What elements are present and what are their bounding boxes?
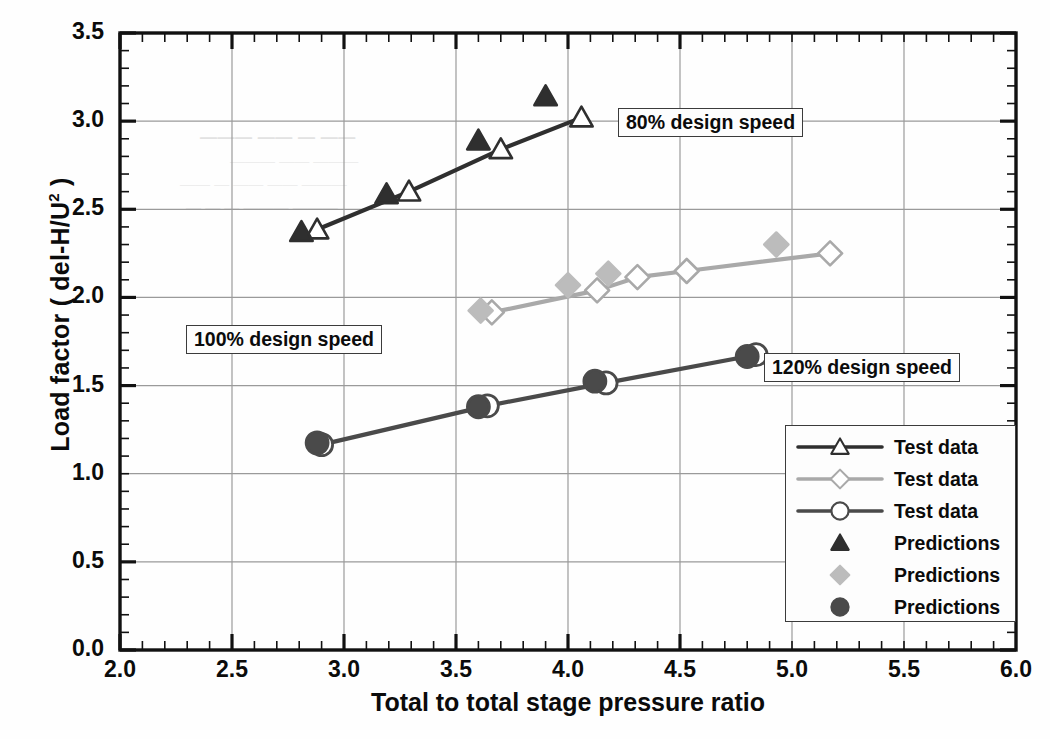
legend-label: Test data (894, 500, 978, 523)
legend-symbol (786, 495, 894, 527)
x-tick-label: 4.5 (635, 656, 725, 683)
x-tick-label: 4.0 (523, 656, 613, 683)
legend-symbol (786, 591, 894, 623)
y-tick-label: 1.0 (8, 459, 104, 486)
y-tick-label: 0.5 (8, 547, 104, 574)
legend-item[interactable]: Predictions (786, 527, 1015, 559)
legend-label: Test data (894, 436, 978, 459)
y-tick-label: 2.0 (8, 282, 104, 309)
legend-item[interactable]: Predictions (786, 591, 1015, 623)
legend[interactable]: Test dataTest dataTest dataPredictionsPr… (785, 425, 1016, 622)
legend-symbol (786, 559, 894, 591)
x-tick-label: 2.5 (187, 656, 277, 683)
series-markers (290, 85, 842, 455)
legend-item[interactable]: Predictions (786, 559, 1015, 591)
legend-symbol (786, 527, 894, 559)
y-tick-label: 1.5 (8, 371, 104, 398)
chart-figure: ——— —— — —— ——— —— ——— —— — —— —— ——— — … (0, 0, 1050, 739)
x-tick-label: 3.5 (411, 656, 501, 683)
legend-item[interactable]: Test data (786, 431, 1015, 463)
legend-label: Predictions (894, 532, 1000, 555)
annotation-120-design-speed: 120% design speed (764, 353, 960, 382)
y-tick-label: 2.5 (8, 194, 104, 221)
annotation-80-design-speed: 80% design speed (618, 108, 803, 137)
y-tick-label: 3.0 (8, 106, 104, 133)
legend-label: Predictions (894, 564, 1000, 587)
legend-label: Predictions (894, 596, 1000, 619)
annotation-100-design-speed: 100% design speed (186, 325, 382, 354)
legend-symbol (786, 431, 894, 463)
x-tick-label: 6.0 (971, 656, 1050, 683)
x-axis-label: Total to total stage pressure ratio (120, 688, 1016, 717)
legend-label: Test data (894, 468, 978, 491)
x-tick-label: 2.0 (75, 656, 165, 683)
legend-symbol (786, 463, 894, 495)
x-tick-label: 5.0 (747, 656, 837, 683)
y-tick-label: 3.5 (8, 18, 104, 45)
x-tick-label: 5.5 (859, 656, 949, 683)
x-tick-label: 3.0 (299, 656, 389, 683)
legend-item[interactable]: Test data (786, 495, 1015, 527)
legend-item[interactable]: Test data (786, 463, 1015, 495)
